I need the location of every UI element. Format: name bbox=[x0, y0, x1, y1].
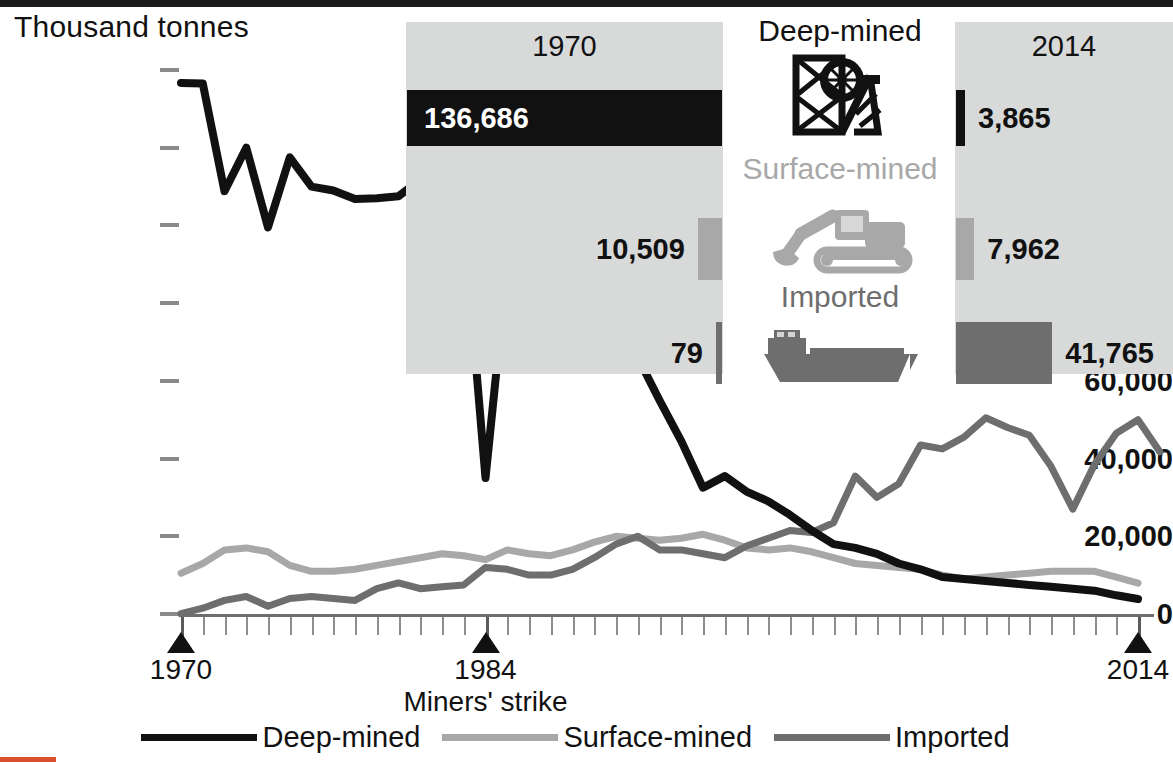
panel-bar-imported bbox=[716, 322, 722, 384]
x-tick bbox=[942, 617, 944, 635]
x-tick bbox=[333, 617, 335, 635]
x-tick bbox=[964, 617, 966, 635]
legend-label: Surface-mined bbox=[563, 721, 752, 754]
panel-bar-imported bbox=[956, 322, 1052, 384]
x-tick bbox=[725, 617, 727, 635]
legend-item-imported[interactable]: Imported bbox=[774, 721, 1031, 754]
legend-item-surface-mined[interactable]: Surface-mined bbox=[442, 721, 774, 754]
panel-year-label: 1970 bbox=[406, 30, 723, 63]
x-tick bbox=[899, 617, 901, 635]
x-tick bbox=[355, 617, 357, 635]
x-tick bbox=[1008, 617, 1010, 635]
x-tick bbox=[399, 617, 401, 635]
comparison-panel-1970: 1970136,68610,50979 bbox=[406, 22, 723, 374]
x-tick bbox=[616, 617, 618, 635]
cargo-ship-icon bbox=[760, 326, 920, 388]
series-line-surface-mined bbox=[181, 534, 1138, 583]
x-tick bbox=[507, 617, 509, 635]
x-tick bbox=[768, 617, 770, 635]
x-tick bbox=[812, 617, 814, 635]
x-tick bbox=[1095, 617, 1097, 635]
x-tick bbox=[246, 617, 248, 635]
x-tick bbox=[747, 617, 749, 635]
legend-label: Deep-mined bbox=[262, 721, 420, 754]
x-tick bbox=[703, 617, 705, 635]
chart-legend: Deep-minedSurface-minedImported bbox=[0, 721, 1173, 754]
excavator-icon-wrap bbox=[726, 200, 954, 280]
x-tick bbox=[1116, 617, 1118, 635]
x-tick bbox=[290, 617, 292, 635]
miners-strike-annotation: Miners' strike bbox=[403, 686, 567, 718]
x-tick-label: 1984 bbox=[454, 654, 516, 686]
x-axis-marker-triangle bbox=[167, 632, 195, 653]
x-tick bbox=[312, 617, 314, 635]
corner-accent-mark bbox=[0, 757, 56, 762]
panel-bar-deep-mined bbox=[956, 90, 965, 146]
x-tick bbox=[1073, 617, 1075, 635]
panel-bar-value: 79 bbox=[671, 337, 703, 370]
category-name-imported: Imported bbox=[726, 280, 954, 314]
x-tick bbox=[921, 617, 923, 635]
panel-bar-surface-mined bbox=[698, 218, 722, 280]
x-tick bbox=[268, 617, 270, 635]
x-tick bbox=[660, 617, 662, 635]
legend-label: Imported bbox=[895, 721, 1009, 754]
pithead-winding-gear-icon bbox=[792, 54, 888, 140]
x-tick bbox=[420, 617, 422, 635]
x-tick-label: 1970 bbox=[150, 654, 212, 686]
x-tick bbox=[877, 617, 879, 635]
panel-bar-value: 136,686 bbox=[424, 102, 529, 135]
x-tick bbox=[1029, 617, 1031, 635]
x-tick bbox=[203, 617, 205, 635]
panel-bar-value: 7,962 bbox=[987, 233, 1060, 266]
legend-swatch bbox=[141, 734, 257, 741]
panel-year-label: 2014 bbox=[955, 30, 1173, 63]
legend-swatch bbox=[442, 734, 558, 741]
x-tick bbox=[377, 617, 379, 635]
panel-bar-surface-mined bbox=[956, 218, 974, 280]
x-tick bbox=[681, 617, 683, 635]
category-name-surface-mined: Surface-mined bbox=[726, 152, 954, 186]
x-tick bbox=[442, 617, 444, 635]
x-tick bbox=[529, 617, 531, 635]
x-axis-marker-triangle bbox=[472, 632, 500, 653]
pithead-winding-gear-icon-wrap bbox=[726, 54, 954, 144]
x-tick bbox=[225, 617, 227, 635]
comparison-panel-2014: 20143,8657,96241,765 bbox=[955, 22, 1173, 374]
panel-bar-value: 41,765 bbox=[1065, 337, 1154, 370]
x-tick bbox=[986, 617, 988, 635]
x-tick bbox=[790, 617, 792, 635]
x-tick bbox=[551, 617, 553, 635]
x-tick bbox=[638, 617, 640, 635]
category-name-deep-mined: Deep-mined bbox=[726, 14, 954, 48]
x-tick bbox=[855, 617, 857, 635]
x-tick bbox=[1051, 617, 1053, 635]
x-tick bbox=[834, 617, 836, 635]
x-tick bbox=[594, 617, 596, 635]
legend-item-deep-mined[interactable]: Deep-mined bbox=[141, 721, 442, 754]
x-axis-marker-triangle bbox=[1124, 632, 1152, 653]
x-tick-label: 2014 bbox=[1107, 654, 1169, 686]
cargo-ship-icon-wrap bbox=[726, 326, 954, 392]
x-tick bbox=[464, 617, 466, 635]
legend-swatch bbox=[774, 734, 890, 741]
panel-bar-value: 3,865 bbox=[978, 102, 1051, 135]
panel-bar-value: 10,509 bbox=[596, 233, 685, 266]
excavator-icon bbox=[765, 200, 915, 276]
x-tick bbox=[573, 617, 575, 635]
